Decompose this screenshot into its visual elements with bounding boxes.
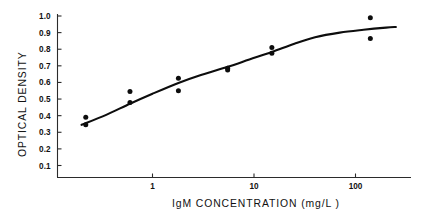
y-tick-label: 0.9 <box>39 29 51 38</box>
y-tick-label: 0.8 <box>39 45 51 54</box>
y-tick-label: 0.5 <box>39 95 51 104</box>
y-axis-title: OPTICAL DENSITY <box>17 52 28 158</box>
data-point <box>127 100 132 105</box>
x-axis-tick-labels: 110100 <box>150 182 363 191</box>
data-point <box>368 36 373 41</box>
y-tick-label: 0.4 <box>39 112 51 121</box>
data-point <box>269 45 274 50</box>
x-axis-title: IgM CONCENTRATION (mg/L ) <box>172 198 340 209</box>
x-tick-label: 100 <box>349 182 363 191</box>
y-tick-label: 0.6 <box>39 78 51 87</box>
y-axis-tick-labels: 1.00.90.80.70.60.50.40.30.20.1 <box>39 12 51 171</box>
data-point <box>83 122 88 127</box>
data-point <box>269 51 274 56</box>
x-tick-label: 10 <box>249 182 259 191</box>
y-tick-label: 0.1 <box>39 162 51 171</box>
data-point <box>225 67 230 72</box>
y-tick-label: 0.3 <box>39 128 51 137</box>
y-axis-ticks <box>58 16 62 166</box>
data-point <box>176 76 181 81</box>
data-point <box>368 15 373 20</box>
y-tick-label: 0.2 <box>39 145 51 154</box>
y-tick-label: 1.0 <box>39 12 51 21</box>
scatter-plot: 1.00.90.80.70.60.50.40.30.20.1 110100 OP… <box>0 0 429 218</box>
data-point <box>83 115 88 120</box>
data-point <box>176 88 181 93</box>
figure-optical-density-calibration: 1.00.90.80.70.60.50.40.30.20.1 110100 OP… <box>0 0 429 218</box>
data-points-group <box>83 15 373 127</box>
axes <box>57 14 411 178</box>
x-tick-label: 1 <box>150 182 155 191</box>
calibration-fit-curve <box>82 27 396 125</box>
data-point <box>127 89 132 94</box>
y-tick-label: 0.7 <box>39 62 51 71</box>
x-axis-ticks <box>153 174 356 178</box>
